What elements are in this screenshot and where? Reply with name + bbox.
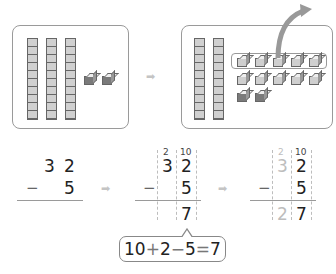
step1-subtrahend: 5 <box>64 180 75 197</box>
step1-line <box>17 200 83 201</box>
column-guide <box>196 150 197 220</box>
base-ten-panel-32 <box>12 25 129 129</box>
step1-minus: − <box>26 181 39 196</box>
plus-sign: + <box>146 239 160 259</box>
tens-rod <box>65 38 76 120</box>
equals-sign: = <box>196 239 210 259</box>
step3-result-tens: 2 <box>277 206 288 223</box>
step3-result-ones: 7 <box>296 206 307 223</box>
unit-cube <box>237 58 247 67</box>
bubble-ten: 10 <box>124 239 146 259</box>
unit-cube <box>255 93 265 102</box>
arrow-right-icon: ➡ <box>218 182 227 195</box>
step3-line <box>250 200 316 201</box>
tens-rod <box>194 38 205 120</box>
step2-subtrahend: 5 <box>181 180 192 197</box>
tens-rod <box>27 38 38 120</box>
tens-rod <box>46 38 57 120</box>
take-away-arrow-icon <box>270 0 315 60</box>
regroup-explanation-bubble: 10+2−5=7 <box>119 236 226 262</box>
arrow-right-icon: ➡ <box>146 70 155 83</box>
step3-tens: 3 <box>277 158 288 175</box>
column-guide <box>272 150 273 220</box>
unit-cube <box>237 93 247 102</box>
column-guide <box>311 150 312 220</box>
step2-result-ones: 7 <box>181 206 192 223</box>
unit-cube <box>84 76 94 85</box>
step1-ones: 2 <box>64 158 75 175</box>
unit-cube <box>255 58 265 67</box>
step3-ones: 2 <box>296 158 307 175</box>
step2-line <box>135 200 201 201</box>
tens-rod <box>213 38 224 120</box>
column-guide <box>291 150 292 220</box>
step3-subtrahend: 5 <box>296 180 307 197</box>
step2-ones: 2 <box>181 158 192 175</box>
bubble-two: 2 <box>160 239 171 259</box>
unit-cube <box>291 76 301 85</box>
step2-tens: 3 <box>162 158 173 175</box>
unit-cube <box>255 76 265 85</box>
minus-sign: − <box>171 239 185 259</box>
unit-cube <box>273 76 283 85</box>
step1-tens: 3 <box>44 158 55 175</box>
column-guide <box>157 150 158 220</box>
bubble-result: 7 <box>210 239 221 259</box>
bubble-pointer <box>180 228 194 238</box>
column-guide <box>176 150 177 220</box>
step3-minus: − <box>258 181 271 196</box>
unit-cube <box>102 76 112 85</box>
unit-cube <box>309 76 319 85</box>
arrow-right-icon: ➡ <box>101 182 110 195</box>
unit-cube <box>237 76 247 85</box>
bubble-five: 5 <box>185 239 196 259</box>
step2-minus: − <box>143 181 156 196</box>
